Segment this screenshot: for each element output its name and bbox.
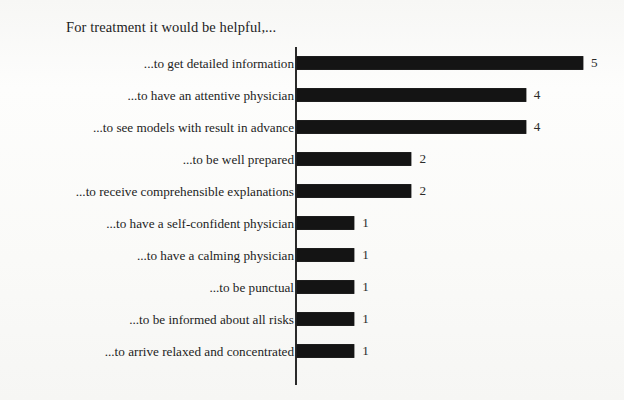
bar-row: ...to be informed about all risks 1 — [0, 303, 624, 335]
bar-value-label: 5 — [591, 55, 598, 71]
bar-track — [297, 313, 354, 326]
bar-track — [297, 57, 583, 70]
bar-chart: For treatment it would be helpful,... ..… — [0, 0, 624, 400]
bar-row: ...to arrive relaxed and concentrated 1 — [0, 335, 624, 367]
category-label: ...to get detailed information — [144, 56, 294, 71]
bar-row: ...to get detailed information 5 — [0, 47, 624, 79]
bar-row: ...to have a self-confident physician 1 — [0, 207, 624, 239]
category-label: ...to see models with result in advance — [93, 120, 294, 135]
bar-track — [297, 121, 526, 134]
bar-value-label: 2 — [419, 183, 426, 199]
category-label: ...to have a calming physician — [137, 248, 294, 263]
bar-value-label: 1 — [362, 215, 369, 231]
bar-row: ...to be punctual 1 — [0, 271, 624, 303]
bar-fill — [297, 313, 354, 326]
category-label: ...to have an attentive physician — [127, 88, 294, 103]
bar-value-label: 4 — [534, 119, 541, 135]
plot-area: ...to get detailed information 5 ...to h… — [0, 47, 624, 385]
category-label: ...to be well prepared — [183, 152, 294, 167]
bar-fill — [297, 217, 354, 230]
bar-value-label: 2 — [419, 151, 426, 167]
bar-value-label: 1 — [362, 279, 369, 295]
bar-row: ...to be well prepared 2 — [0, 143, 624, 175]
bar-track — [297, 89, 526, 102]
category-label: ...to receive comprehensible explanation… — [76, 184, 294, 199]
bar-row: ...to have a calming physician 1 — [0, 239, 624, 271]
category-label: ...to arrive relaxed and concentrated — [105, 344, 294, 359]
bar-track — [297, 217, 354, 230]
bar-value-label: 1 — [362, 343, 369, 359]
bar-fill — [297, 153, 411, 166]
bar-fill — [297, 249, 354, 262]
bar-track — [297, 281, 354, 294]
bar-fill — [297, 121, 526, 134]
bar-fill — [297, 185, 411, 198]
bar-fill — [297, 345, 354, 358]
bar-fill — [297, 57, 583, 70]
category-label: ...to be punctual — [209, 280, 294, 295]
bar-row: ...to have an attentive physician 4 — [0, 79, 624, 111]
category-label: ...to be informed about all risks — [129, 312, 294, 327]
bar-fill — [297, 281, 354, 294]
chart-title: For treatment it would be helpful,... — [66, 19, 276, 36]
bar-value-label: 1 — [362, 247, 369, 263]
bar-row: ...to receive comprehensible explanation… — [0, 175, 624, 207]
bar-track — [297, 345, 354, 358]
bar-track — [297, 249, 354, 262]
bar-track — [297, 185, 411, 198]
bar-track — [297, 153, 411, 166]
bar-row: ...to see models with result in advance … — [0, 111, 624, 143]
category-label: ...to have a self-confident physician — [106, 216, 294, 231]
bar-fill — [297, 89, 526, 102]
bar-value-label: 4 — [534, 87, 541, 103]
bar-value-label: 1 — [362, 311, 369, 327]
